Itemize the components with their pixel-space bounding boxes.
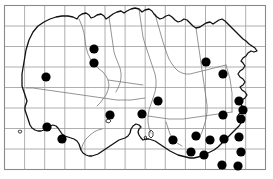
occurrence-dot <box>238 105 247 114</box>
occurrence-dot <box>57 134 66 143</box>
occurrence-dot <box>218 69 227 78</box>
occurrence-dot <box>186 147 195 156</box>
occurrence-dot <box>137 109 146 118</box>
occurrence-dot <box>199 150 208 159</box>
occurrence-dot <box>191 131 200 140</box>
occurrence-dot <box>217 160 226 169</box>
occurrence-dot <box>233 161 242 170</box>
occurrence-dot <box>41 72 50 81</box>
map-canvas <box>0 0 273 179</box>
occurrence-dot <box>89 58 98 67</box>
occurrence-dot <box>219 134 228 143</box>
occurrence-dot <box>236 114 245 123</box>
occurrence-dot <box>218 110 227 119</box>
distribution-map <box>0 0 273 179</box>
occurrence-dot <box>234 96 243 105</box>
occurrence-dot <box>153 96 162 105</box>
occurrence-dot <box>168 135 177 144</box>
occurrence-dot <box>201 57 210 66</box>
occurrence-dot <box>234 132 243 141</box>
occurrence-dot <box>42 122 51 131</box>
occurrence-dot <box>105 110 114 119</box>
occurrence-dot <box>236 147 245 156</box>
occurrence-dot <box>205 135 214 144</box>
occurrence-dot <box>89 44 98 53</box>
